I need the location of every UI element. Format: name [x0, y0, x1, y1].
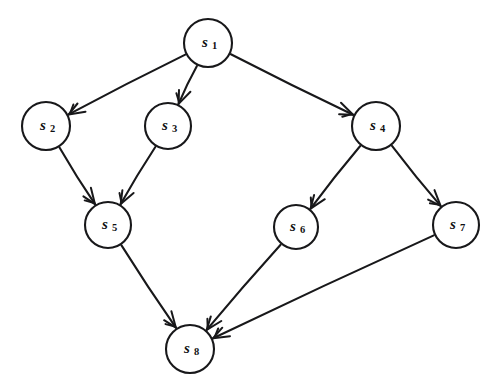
edge-s6-to-s8 — [207, 245, 281, 330]
node-circle[interactable] — [22, 102, 70, 150]
node-label: s — [289, 218, 296, 234]
edge-s3-to-s5 — [120, 147, 156, 204]
node-s3[interactable]: s3 — [145, 103, 191, 149]
node-label-subscript: 8 — [194, 346, 199, 357]
edge-line — [213, 235, 434, 338]
node-label: s — [39, 117, 46, 133]
edge-s4-to-s6 — [311, 146, 361, 209]
arrow-head-icon — [311, 195, 325, 209]
node-circle[interactable] — [166, 325, 214, 373]
edge-s1-to-s4 — [231, 54, 353, 117]
edge-line — [179, 66, 197, 104]
node-s8[interactable]: s8 — [166, 325, 214, 373]
graph-figure: s1s2s3s4s5s6s7s8 — [0, 0, 503, 383]
edge-line — [231, 54, 353, 114]
edge-s5-to-s8 — [122, 245, 176, 327]
edge-s4-to-s7 — [392, 146, 441, 206]
node-s6[interactable]: s6 — [274, 205, 318, 249]
node-label-subscript: 3 — [172, 123, 177, 134]
edge-s7-to-s8 — [213, 235, 434, 338]
node-circle[interactable] — [274, 205, 318, 249]
node-circle[interactable] — [85, 202, 131, 248]
edge-line — [60, 148, 96, 205]
node-s2[interactable]: s2 — [22, 102, 70, 150]
node-label-subscript: 7 — [460, 222, 465, 233]
edges-layer — [60, 54, 441, 338]
node-label: s — [101, 216, 108, 232]
node-label: s — [201, 34, 208, 50]
edge-s1-to-s3 — [176, 66, 197, 104]
node-circle[interactable] — [433, 202, 479, 248]
arrow-head-icon — [207, 316, 222, 329]
node-label: s — [161, 117, 168, 133]
node-s7[interactable]: s7 — [433, 202, 479, 248]
node-circle[interactable] — [352, 102, 400, 150]
node-label: s — [369, 117, 376, 133]
edge-line — [311, 146, 361, 209]
node-s4[interactable]: s4 — [352, 102, 400, 150]
node-label-subscript: 1 — [212, 40, 217, 51]
node-s1[interactable]: s1 — [184, 19, 232, 67]
arrow-feather-icon — [311, 198, 312, 208]
node-s5[interactable]: s5 — [85, 202, 131, 248]
edge-s2-to-s5 — [60, 148, 96, 205]
node-circle[interactable] — [145, 103, 191, 149]
edge-line — [207, 245, 281, 330]
node-label: s — [183, 340, 190, 356]
edge-line — [122, 245, 176, 327]
node-label-subscript: 2 — [50, 123, 55, 134]
edge-line — [121, 147, 156, 204]
node-label-subscript: 5 — [112, 222, 117, 233]
graph-canvas: s1s2s3s4s5s6s7s8 — [0, 0, 503, 383]
edge-line — [392, 146, 441, 206]
node-circle[interactable] — [184, 19, 232, 67]
node-label: s — [449, 216, 456, 232]
node-label-subscript: 4 — [380, 123, 386, 134]
node-label-subscript: 6 — [300, 224, 305, 235]
